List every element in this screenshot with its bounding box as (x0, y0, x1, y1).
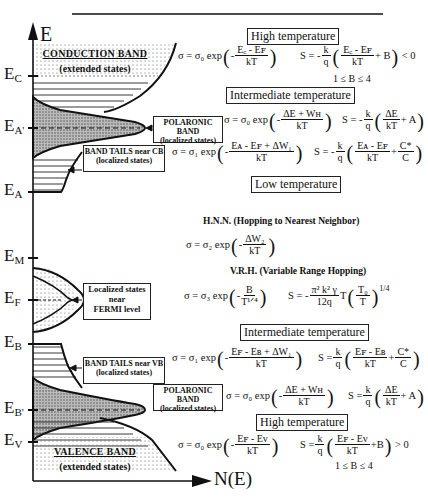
eq-intermediate-bottom-sigma: σ = σ₀ exp(- ΔE + WʜkT) (226, 384, 335, 407)
eq-intermediate-top-sigma: σ = σ₀ exp(- ΔE + WʜkT) (224, 108, 333, 131)
conduction-band-label: CONDUCTION BAND (extended states) (40, 46, 150, 76)
eq-high-bottom-sigma: σ = σ₀ exp(- Eꜰ - EᴠkT) (178, 433, 280, 456)
header-high-temperature-bottom: High temperature (256, 414, 348, 431)
b-range-top: 1 ≤ B ≤ 4 (333, 73, 371, 84)
vrh-note: V.R.H. (Variable Range Hopping) (230, 266, 366, 276)
level-ef: EF (4, 289, 21, 308)
cb-tail-lines (33, 160, 78, 190)
b-range-bottom: 1 ≤ B ≤ 4 (335, 460, 373, 471)
level-em: EM (4, 247, 24, 266)
vb-tail-lines (33, 347, 76, 377)
eq-band-tail-cb-sigma: σ = σ₁ exp(- Eᴀ - Eꜰ + ΔW₁kT) (172, 140, 304, 163)
level-ec: EC (4, 65, 22, 84)
dos-axis-label: N(E) (214, 469, 252, 488)
eq-band-tail-vb-sigma: σ = σ₁ exp(- Eꜰ - Eʙ + ΔW₁kT) (172, 346, 303, 369)
band-tails-cb-box: BAND TAILS near CB(localized states) (83, 145, 165, 172)
eq-vrh-sigma: σ = σ₃ exp(- BT¹ᐟ⁴) (184, 284, 267, 307)
polaronic-band-vb-box: POLARONIC BAND(localized states) (153, 384, 223, 411)
fermi-localized-box: Localized statesnearFERMI level (83, 283, 151, 320)
eq-hnn-sigma: σ = σ₂ exp(- ΔW₂kT) (186, 233, 276, 256)
dos-axis-arrow (192, 475, 212, 487)
polaronic-band-cb-box: POLARONIC BAND(localized states) (153, 116, 223, 143)
eq-band-tail-cb-seebeck: S = - kq (Eᴀ - EꜰkT + C*C) (314, 140, 423, 163)
level-ev: EV (4, 431, 22, 450)
polaronic-band-vb (33, 378, 145, 440)
eq-band-tail-vb-seebeck: S = kq (Eꜰ - EʙkT + C*C) (318, 346, 421, 369)
cb-hatch-lines (33, 83, 148, 107)
eq-intermediate-top-seebeck: S = - kq (ΔEkT + A) (342, 108, 425, 131)
energy-axis-label: E (40, 24, 52, 44)
header-intermediate-temperature-bottom: Intermediate temperature (240, 324, 369, 341)
header-intermediate-temperature-top: Intermediate temperature (226, 87, 355, 104)
eq-high-top-seebeck: S = - kq (E꜀ - EꜰkT + B) < 0 (300, 44, 416, 67)
level-eb-prime: EB' (4, 399, 24, 418)
level-eb: EB (4, 333, 22, 352)
eq-high-bottom-seebeck: S = kq (Eꜰ - EᴠkT +B) > 0 (300, 433, 409, 456)
valence-band-label: VALENCE BAND (extended states) (40, 444, 150, 474)
energy-axis-arrow (28, 22, 38, 40)
hnn-note: H.N.N. (Hopping to Nearest Neighbor) (203, 216, 359, 226)
level-ea: EA (4, 181, 22, 200)
eq-intermediate-bottom-seebeck: S = kq (ΔEkT + A) (348, 384, 425, 407)
eq-vrh-seebeck: S = - π² k² γ12q T(T₀T) 1/4 (288, 284, 390, 307)
header-low-temperature: Low temperature (251, 176, 341, 193)
header-high-temperature-top: High temperature (247, 28, 339, 45)
band-tails-vb-box: BAND TAILS near VB(localized states) (83, 357, 165, 384)
level-ea-prime: EA' (4, 117, 24, 136)
eq-high-top-sigma: σ = σ₀ exp(- E꜀ - EꜰkT) (178, 44, 278, 67)
